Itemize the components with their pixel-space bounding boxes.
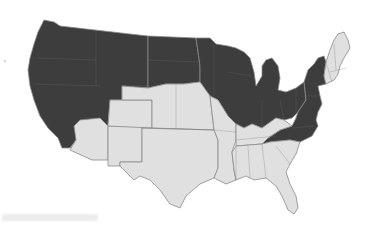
state-nm bbox=[108, 126, 142, 166]
state-new-england bbox=[324, 32, 350, 84]
state-dakotas bbox=[148, 36, 200, 88]
state-az bbox=[70, 118, 108, 160]
map-caption bbox=[2, 214, 98, 221]
stray-mark bbox=[4, 60, 6, 62]
state-co bbox=[108, 100, 152, 128]
us-map bbox=[0, 0, 369, 227]
